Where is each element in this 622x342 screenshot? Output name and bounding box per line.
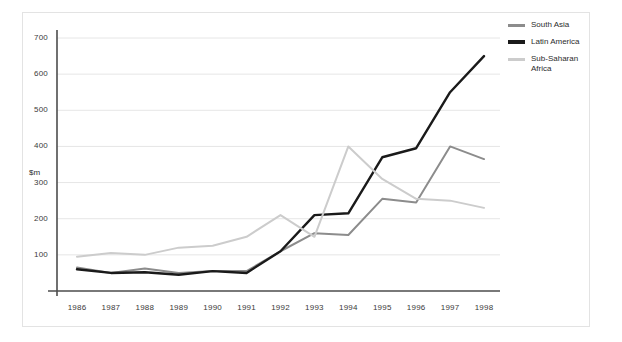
legend-color-swatch xyxy=(508,40,525,44)
chart-figure: $m 100200300400500600700 198619871988198… xyxy=(0,0,622,342)
legend-color-swatch xyxy=(508,58,525,61)
y-tick-label: 300 xyxy=(14,178,48,187)
y-tick-label: 400 xyxy=(14,141,48,150)
gridlines xyxy=(57,38,500,255)
y-axis-title: $m xyxy=(29,168,40,177)
y-tick-label: 700 xyxy=(14,33,48,42)
series-line xyxy=(77,146,484,256)
chart-legend: South AsiaLatin AmericaSub-Saharan Afric… xyxy=(508,20,586,81)
legend-item[interactable]: South Asia xyxy=(508,20,586,30)
y-tick-label: 100 xyxy=(14,250,48,259)
data-series-group xyxy=(77,56,484,275)
legend-item[interactable]: Sub-Saharan Africa xyxy=(508,54,586,74)
y-tick-label: 200 xyxy=(14,214,48,223)
legend-item[interactable]: Latin America xyxy=(508,37,586,47)
legend-color-swatch xyxy=(508,24,525,27)
legend-item-label: Latin America xyxy=(531,37,579,47)
legend-item-label: South Asia xyxy=(531,20,569,30)
legend-item-label: Sub-Saharan Africa xyxy=(531,54,578,74)
y-tick-label: 600 xyxy=(14,69,48,78)
x-tick-label: 1998 xyxy=(464,303,504,312)
y-tick-label: 500 xyxy=(14,105,48,114)
series-line xyxy=(77,56,484,275)
